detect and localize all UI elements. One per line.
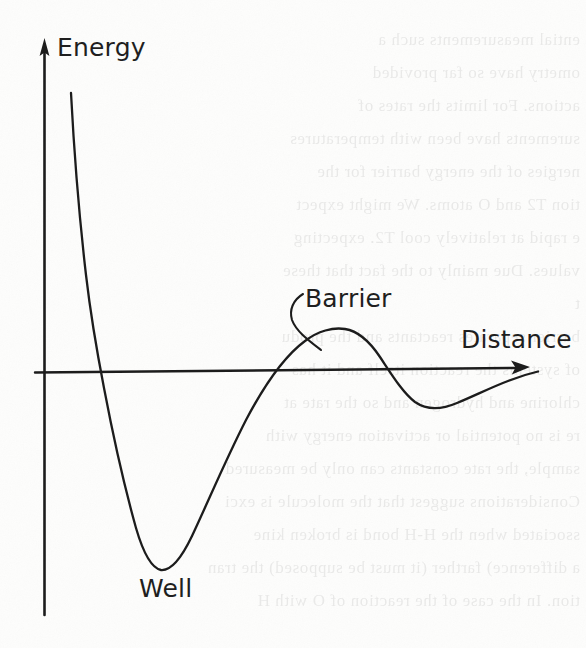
scanned-page: ential measurements such aometry have so… — [0, 0, 586, 648]
energy-axis-label: Energy — [57, 33, 146, 62]
energy-axis — [40, 38, 50, 615]
distance-axis-label: Distance — [461, 325, 572, 354]
barrier-annotation-label: Barrier — [305, 284, 392, 313]
well-annotation-label: Well — [139, 574, 192, 603]
potential-energy-curve-figure — [0, 0, 586, 648]
